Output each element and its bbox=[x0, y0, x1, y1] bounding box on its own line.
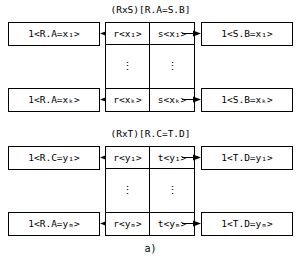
join-structure-diagram: (RxS)[R.A=S.B] 1<R.A=x₁> 1<R.A=xₖ> bbox=[0, 0, 301, 265]
rs-cell-r-ellipsis: ⋮ bbox=[106, 45, 150, 89]
rs-arrow-right-first-icon bbox=[182, 29, 201, 38]
rs-cell-s-ellipsis: ⋮ bbox=[150, 45, 194, 89]
join-group-rt-body: 1<R.C=y₁> 1<R.A=yₘ> r<y₁> t<y₁> ⋮ ⋮ bbox=[0, 145, 301, 237]
join-group-rt-title: (RxT)[R.C=T.D] bbox=[0, 128, 301, 140]
rt-cell-r-last: r<yₘ> bbox=[106, 213, 150, 235]
rs-left-box-first: 1<R.A=x₁> bbox=[8, 22, 100, 46]
rt-left-column: 1<R.C=y₁> 1<R.A=yₘ> bbox=[8, 145, 100, 237]
rt-right-column: 1<T.D=y₁> 1<T.D=yₘ> bbox=[201, 145, 293, 237]
rt-right-box-first: 1<T.D=y₁> bbox=[201, 146, 293, 170]
rs-left-column: 1<R.A=x₁> 1<R.A=xₖ> bbox=[8, 21, 100, 113]
join-group-rt: (RxT)[R.C=T.D] 1<R.C=y₁> 1<R.A=yₘ> r<y bbox=[0, 128, 301, 240]
rs-right-column: 1<S.B=x₁> 1<S.B=xₖ> bbox=[201, 21, 293, 113]
rt-cell-r-ellipsis: ⋮ bbox=[106, 169, 150, 213]
rt-arrow-right-first-icon bbox=[182, 153, 201, 162]
rs-arrow-right-last-icon bbox=[182, 95, 201, 104]
rs-left-box-last: 1<R.A=xₖ> bbox=[8, 88, 100, 112]
rt-cell-t-ellipsis: ⋮ bbox=[150, 169, 194, 213]
rt-cell-r-first: r<y₁> bbox=[106, 147, 150, 169]
rs-cell-r-first: r<x₁> bbox=[106, 23, 150, 45]
join-group-rs-body: 1<R.A=x₁> 1<R.A=xₖ> r<x₁> s<x₁> bbox=[0, 21, 301, 113]
rs-right-box-first: 1<S.B=x₁> bbox=[201, 22, 293, 46]
join-group-rs-title: (RxS)[R.A=S.B] bbox=[0, 4, 301, 16]
join-group-rs: (RxS)[R.A=S.B] 1<R.A=x₁> 1<R.A=xₖ> bbox=[0, 4, 301, 119]
rt-right-box-last: 1<T.D=yₘ> bbox=[201, 212, 293, 236]
figure-caption: a) bbox=[0, 243, 301, 255]
rt-left-box-first: 1<R.C=y₁> bbox=[8, 146, 100, 170]
rt-arrow-right-last-icon bbox=[182, 219, 201, 228]
rs-right-box-last: 1<S.B=xₖ> bbox=[201, 88, 293, 112]
rt-left-box-last: 1<R.A=yₘ> bbox=[8, 212, 100, 236]
rs-cell-r-last: r<xₖ> bbox=[106, 89, 150, 111]
